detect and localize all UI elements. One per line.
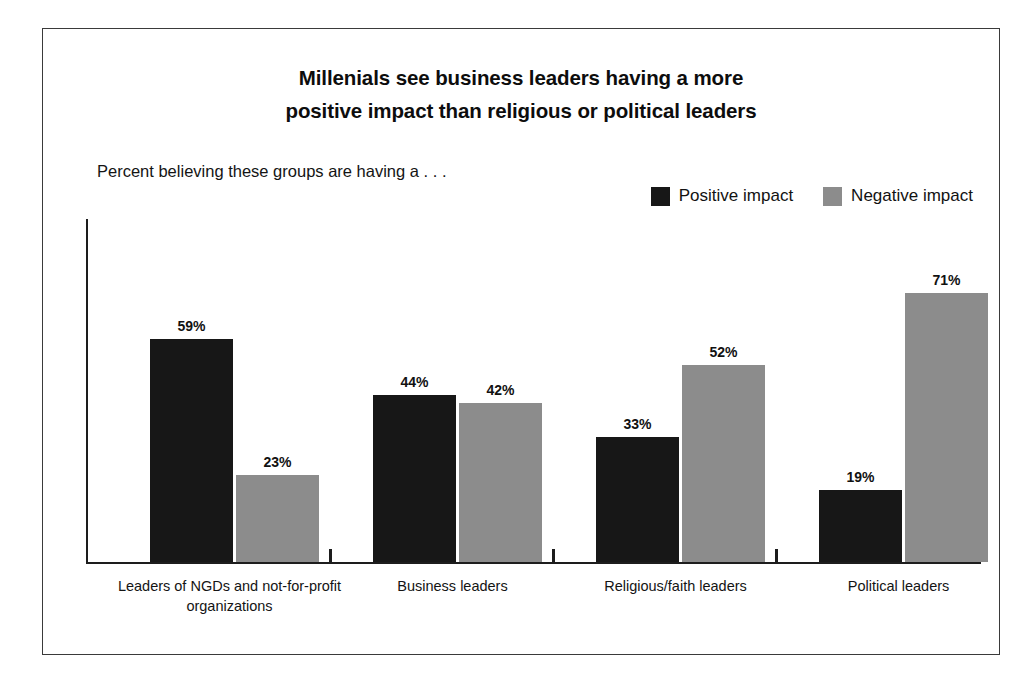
legend-item-positive: Positive impact (651, 186, 793, 206)
legend-label-negative: Negative impact (851, 186, 973, 206)
bar-negative[interactable]: 71% (905, 269, 988, 562)
bar-rect[interactable] (682, 365, 765, 562)
bar-rect[interactable] (819, 490, 902, 562)
category-label: Leaders of NGDs and not-for-profitorgani… (108, 576, 352, 616)
bar-rect[interactable] (459, 403, 542, 562)
x-axis-tick (775, 549, 778, 562)
title-line-2: positive impact than religious or politi… (43, 94, 999, 127)
bar-negative[interactable]: 42% (459, 379, 542, 562)
bar-positive[interactable]: 44% (373, 371, 456, 562)
bar-positive[interactable]: 19% (819, 466, 902, 562)
bar-rect[interactable] (596, 437, 679, 562)
category-label-line: Leaders of NGDs and not-for-profit (108, 576, 352, 596)
bar-value-label: 33% (596, 416, 679, 432)
bar-value-label: 23% (236, 454, 319, 470)
bar-positive[interactable]: 33% (596, 413, 679, 562)
category-label-line: Business leaders (331, 576, 575, 596)
bar-group: 33%52% (564, 219, 787, 562)
legend-item-negative: Negative impact (823, 186, 973, 206)
category-label: Religious/faith leaders (554, 576, 798, 596)
title-line-1: Millenials see business leaders having a… (43, 61, 999, 94)
x-axis-tick (329, 549, 332, 562)
bar-group: 59%23% (118, 219, 341, 562)
bar-rect[interactable] (373, 395, 456, 562)
x-axis-line (86, 562, 981, 564)
category-label: Business leaders (331, 576, 575, 596)
figure-frame: Millenials see business leaders having a… (42, 28, 1000, 655)
bar-value-label: 42% (459, 382, 542, 398)
category-axis-labels: Leaders of NGDs and not-for-profitorgani… (86, 576, 981, 636)
bar-group: 44%42% (341, 219, 564, 562)
plot-area: 59%23%44%42%33%52%19%71% (86, 219, 981, 564)
bar-positive[interactable]: 59% (150, 315, 233, 562)
bar-negative[interactable]: 52% (682, 341, 765, 562)
bar-group: 19%71% (787, 219, 1010, 562)
category-label-line: Religious/faith leaders (554, 576, 798, 596)
chart-legend: Positive impact Negative impact (573, 181, 973, 211)
category-label-line: organizations (108, 596, 352, 616)
x-axis-tick (552, 549, 555, 562)
bar-negative[interactable]: 23% (236, 451, 319, 562)
bar-value-label: 59% (150, 318, 233, 334)
bar-value-label: 19% (819, 469, 902, 485)
legend-label-positive: Positive impact (679, 186, 793, 206)
chart-subtitle: Percent believing these groups are havin… (97, 162, 446, 181)
category-label-line: Political leaders (777, 576, 1015, 596)
positive-impact-swatch (651, 187, 670, 206)
bar-rect[interactable] (905, 293, 988, 562)
page-title: Millenials see business leaders having a… (43, 61, 999, 127)
bar-value-label: 52% (682, 344, 765, 360)
bar-value-label: 71% (905, 272, 988, 288)
bar-value-label: 44% (373, 374, 456, 390)
bar-rect[interactable] (150, 339, 233, 562)
negative-impact-swatch (823, 187, 842, 206)
bar-rect[interactable] (236, 475, 319, 562)
bars-layer: 59%23%44%42%33%52%19%71% (86, 219, 981, 562)
category-label: Political leaders (777, 576, 1015, 596)
